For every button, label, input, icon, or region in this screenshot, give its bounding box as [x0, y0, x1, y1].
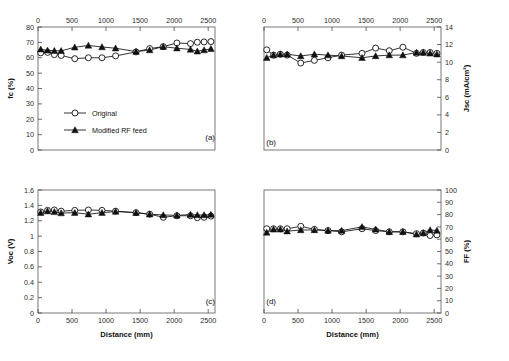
svg-text:1: 1 [30, 232, 34, 241]
svg-text:40: 40 [26, 84, 34, 93]
svg-text:50: 50 [445, 247, 453, 256]
svg-text:0: 0 [262, 16, 266, 25]
panel-b: 0500100015002000250002468101214Jsc (mA/c… [254, 0, 509, 181]
panel-label: (c) [206, 297, 216, 306]
data-point-original [311, 57, 317, 63]
data-point-original [201, 39, 207, 45]
legend-label-modified: Modified RF feed [92, 126, 147, 135]
svg-text:0: 0 [36, 16, 40, 25]
svg-text:0: 0 [262, 316, 266, 325]
svg-text:8: 8 [445, 75, 449, 84]
legend-marker-original [72, 110, 78, 116]
svg-text:500: 500 [292, 316, 304, 325]
svg-text:10: 10 [445, 58, 453, 67]
svg-text:0.8: 0.8 [24, 247, 34, 256]
panel-d-canvas: 0500100015002000250001020304050607080901… [254, 180, 509, 361]
svg-text:0.2: 0.2 [24, 293, 34, 302]
data-point-original [85, 55, 91, 61]
svg-text:4: 4 [445, 110, 449, 119]
legend-label-original: Original [92, 109, 117, 118]
svg-text:10: 10 [26, 130, 34, 139]
panel-a-canvas: 0500100015002000250001020304050607080fc … [0, 0, 255, 181]
plot-frame [264, 27, 441, 150]
svg-text:1000: 1000 [324, 316, 340, 325]
svg-text:14: 14 [445, 23, 453, 32]
svg-text:500: 500 [66, 316, 78, 325]
svg-text:1000: 1000 [98, 16, 114, 25]
svg-text:40: 40 [445, 259, 453, 268]
y-axis-label: FF (%) [462, 239, 471, 263]
svg-text:30: 30 [26, 99, 34, 108]
panel-c: 0500100015002000250000.20.40.60.811.21.4… [0, 180, 255, 361]
svg-text:1.6: 1.6 [24, 186, 34, 195]
svg-text:2000: 2000 [166, 316, 182, 325]
data-point-original [427, 233, 433, 239]
data-point-original [113, 53, 119, 59]
svg-text:0: 0 [445, 146, 449, 155]
data-point-original [208, 39, 214, 45]
panel-label: (d) [266, 297, 276, 306]
plot-frame [264, 190, 441, 313]
svg-text:0.4: 0.4 [24, 278, 34, 287]
panel-b-canvas: 0500100015002000250002468101214Jsc (mA/c… [254, 0, 509, 181]
svg-text:500: 500 [292, 16, 304, 25]
svg-text:2000: 2000 [392, 16, 408, 25]
plot-frame [38, 190, 215, 313]
svg-text:2: 2 [445, 128, 449, 137]
svg-text:1.2: 1.2 [24, 216, 34, 225]
data-point-original [194, 39, 200, 45]
svg-text:2500: 2500 [200, 316, 216, 325]
panel-a: 0500100015002000250001020304050607080fc … [0, 0, 255, 181]
y-axis-label: Voc (V) [6, 238, 15, 264]
svg-text:0: 0 [445, 309, 449, 318]
data-point-original [400, 44, 406, 50]
svg-text:0: 0 [30, 146, 34, 155]
svg-text:100: 100 [445, 186, 457, 195]
svg-text:2000: 2000 [166, 16, 182, 25]
svg-text:2500: 2500 [200, 16, 216, 25]
data-point-original [99, 55, 105, 61]
svg-text:60: 60 [26, 53, 34, 62]
svg-text:1500: 1500 [358, 316, 374, 325]
svg-text:1500: 1500 [132, 316, 148, 325]
svg-text:50: 50 [26, 69, 34, 78]
svg-text:1500: 1500 [358, 16, 374, 25]
svg-text:60: 60 [445, 235, 453, 244]
y-axis-label: fc (%) [6, 78, 15, 99]
svg-text:0.6: 0.6 [24, 262, 34, 271]
figure-root: 0500100015002000250001020304050607080fc … [0, 0, 509, 361]
x-axis-label: Distance (mm) [326, 330, 379, 339]
panel-d: 0500100015002000250001020304050607080901… [254, 180, 509, 361]
data-point-original [298, 60, 304, 66]
panel-label: (a) [205, 133, 215, 142]
svg-text:12: 12 [445, 40, 453, 49]
panel-label: (b) [266, 138, 276, 147]
data-point-original [373, 45, 379, 51]
svg-text:30: 30 [445, 272, 453, 281]
svg-text:2500: 2500 [426, 316, 442, 325]
svg-text:2000: 2000 [392, 316, 408, 325]
svg-text:2500: 2500 [426, 16, 442, 25]
svg-text:1000: 1000 [98, 316, 114, 325]
svg-text:1000: 1000 [324, 16, 340, 25]
svg-text:90: 90 [445, 198, 453, 207]
svg-text:70: 70 [445, 223, 453, 232]
svg-text:500: 500 [66, 16, 78, 25]
svg-text:6: 6 [445, 93, 449, 102]
svg-text:0: 0 [30, 309, 34, 318]
data-point-original [72, 56, 78, 62]
svg-text:70: 70 [26, 38, 34, 47]
svg-text:80: 80 [26, 23, 34, 32]
panel-c-canvas: 0500100015002000250000.20.40.60.811.21.4… [0, 180, 255, 361]
svg-text:80: 80 [445, 210, 453, 219]
svg-text:20: 20 [26, 115, 34, 124]
y-axis-label: Jsc (mA/cm²) [462, 64, 471, 112]
svg-text:10: 10 [445, 296, 453, 305]
svg-text:0: 0 [36, 316, 40, 325]
data-point-original [264, 47, 270, 53]
svg-text:20: 20 [445, 284, 453, 293]
svg-text:1.4: 1.4 [24, 201, 34, 210]
svg-text:1500: 1500 [132, 16, 148, 25]
x-axis-label: Distance (mm) [100, 330, 153, 339]
